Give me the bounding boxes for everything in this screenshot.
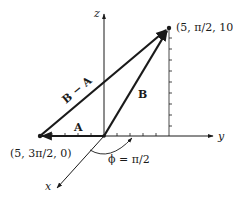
vector-a-label: A <box>73 121 83 134</box>
point-a <box>38 134 42 138</box>
tip-point-label: (5, π/2, 10) <box>176 21 233 34</box>
diagram-canvas: z y x (5, π/2, 10) (5, 3π/2, 0) A B B − … <box>0 0 233 200</box>
vector-b-minus-a <box>40 30 166 136</box>
z-axis-label: z <box>93 7 100 20</box>
vector-b-label: B <box>138 88 147 101</box>
a-point-label: (5, 3π/2, 0) <box>10 147 72 160</box>
height-guide-ticks <box>169 38 172 126</box>
origin-point <box>102 134 106 138</box>
x-axis-label: x <box>45 180 52 193</box>
vector-b-minus-a-label: B − A <box>60 74 95 107</box>
x-axis <box>57 136 104 188</box>
vector-b <box>104 31 167 136</box>
y-axis-label: y <box>217 130 225 143</box>
phi-angle-label: ϕ = π/2 <box>108 153 150 166</box>
point-tip <box>167 26 171 30</box>
phi-angle-arc <box>90 138 132 154</box>
